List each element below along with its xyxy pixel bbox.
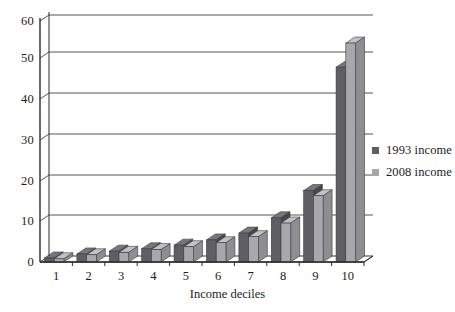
x-axis-title: Income deciles [0, 287, 455, 302]
bar-side-2008-income-d8 [291, 217, 300, 262]
bar-2008-income-d2 [87, 255, 97, 262]
y-tick-label-20: 20 [6, 175, 34, 187]
bar-1993-income-d8 [271, 218, 281, 262]
x-tick-label-4: 4 [140, 270, 166, 283]
legend-swatch-1993-icon [372, 147, 379, 154]
bar-group [216, 237, 235, 262]
y-tick-0: 0 [6, 256, 34, 268]
bar-group [313, 190, 332, 262]
bar-2008-income-d4 [151, 250, 161, 262]
legend-item-2008: 2008 income [372, 161, 452, 183]
gridline-30 [40, 134, 373, 140]
y-tick-label-10: 10 [6, 215, 34, 227]
x-tick-label-9: 9 [302, 270, 328, 283]
gridline-20 [40, 175, 373, 181]
legend-swatch-2008-icon [372, 169, 379, 176]
bar-1993-income-d2 [77, 254, 87, 262]
bar-group [249, 231, 268, 262]
bar-2008-income-d5 [184, 247, 194, 262]
x-tick-label-3: 3 [108, 270, 134, 283]
x-tick-label-6: 6 [205, 270, 231, 283]
x-tick-label-5: 5 [173, 270, 199, 283]
bar-1993-income-d6 [206, 240, 216, 262]
gridline-40 [40, 93, 373, 99]
chart-legend: 1993 income 2008 income [372, 139, 452, 183]
bar-2008-income-d10 [346, 43, 356, 262]
y-tick-20: 20 [6, 175, 34, 187]
bars-layer [44, 37, 364, 262]
bar-2008-income-d7 [249, 237, 259, 262]
y-tick-60: 60 [6, 15, 34, 27]
legend-label-2008: 2008 income [386, 165, 452, 180]
gridline-50 [40, 52, 373, 58]
legend-item-1993: 1993 income [372, 139, 452, 161]
bar-side-2008-income-d9 [323, 190, 332, 262]
y-tick-40: 40 [6, 93, 34, 105]
y-tick-50: 50 [6, 52, 34, 64]
x-tick-label-8: 8 [270, 270, 296, 283]
bar-2008-income-d9 [313, 196, 323, 262]
y-tick-30: 30 [6, 134, 34, 146]
bar-1993-income-d5 [174, 245, 184, 262]
bar-2008-income-d8 [281, 223, 291, 262]
x-tick-label-7: 7 [238, 270, 264, 283]
bar-side-2008-income-d10 [356, 37, 365, 262]
x-tick-label-10: 10 [335, 270, 361, 283]
bar-1993-income-d3 [109, 251, 119, 262]
x-tick-label-1: 1 [43, 270, 69, 283]
bar-group [281, 217, 300, 262]
y-tick-label-30: 30 [6, 134, 34, 146]
y-tick-10: 10 [6, 215, 34, 227]
y-tick-label-50: 50 [6, 52, 34, 64]
y-tick-label-40: 40 [6, 93, 34, 105]
bar-group [346, 37, 365, 262]
x-tick-label-2: 2 [76, 270, 102, 283]
y-tick-label-0: 0 [6, 256, 34, 268]
bar-1993-income-d9 [304, 191, 314, 262]
bar-1993-income-d4 [142, 249, 152, 262]
y-tick-label-60: 60 [6, 15, 34, 27]
bar-1993-income-d7 [239, 233, 249, 262]
legend-label-1993: 1993 income [386, 143, 452, 158]
bar-chart-figure: 60 50 40 30 20 10 0 12345678910 Income d… [0, 0, 455, 312]
gridline-60 [40, 15, 373, 21]
bar-1993-income-d10 [336, 67, 346, 262]
bar-2008-income-d6 [216, 243, 226, 262]
bar-2008-income-d3 [119, 252, 129, 262]
